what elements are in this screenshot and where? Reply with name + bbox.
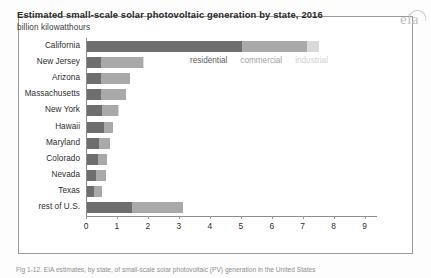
bar-stack: [87, 41, 319, 52]
bar-segment-residential: [87, 154, 98, 165]
title-block: Estimated small-scale solar photovoltaic…: [17, 9, 347, 33]
bar-category-label: New York: [45, 104, 80, 115]
bar-segment-commercial: [101, 73, 130, 84]
bar-stack: [87, 105, 119, 116]
bar-row: California: [86, 41, 377, 52]
bar-row: Maryland: [86, 138, 377, 149]
x-tick-mark: [272, 216, 273, 219]
bar-category-label: Nevada: [51, 169, 80, 180]
bar-segment-residential: [87, 89, 101, 100]
x-tick-mark: [117, 216, 118, 219]
bar-segment-residential: [87, 73, 101, 84]
x-tick-mark: [241, 216, 242, 219]
eia-logo: eia: [400, 11, 419, 27]
bar-segment-commercial: [132, 202, 183, 213]
chart-subtitle: billion kilowatthours: [17, 22, 347, 33]
bar-segment-residential: [87, 186, 94, 197]
bar-segment-residential: [87, 105, 102, 116]
x-tick-label: 0: [84, 221, 89, 232]
bar-segment-industrial: [307, 41, 319, 52]
bar-row: Arizona: [86, 73, 377, 84]
bar-stack: [87, 57, 144, 68]
bar-segment-residential: [87, 41, 242, 52]
bar-segment-commercial: [94, 186, 103, 197]
bar-segment-commercial: [101, 57, 143, 68]
bar-segment-commercial: [242, 41, 307, 52]
bar-segment-industrial: [143, 57, 145, 68]
bar-category-label: California: [45, 40, 80, 51]
bar-stack: [87, 73, 130, 84]
bar-segment-commercial: [99, 138, 110, 149]
bar-segment-residential: [87, 202, 132, 213]
x-tick-label: 1: [115, 221, 120, 232]
bar-row: Nevada: [86, 170, 377, 181]
x-tick-mark: [303, 216, 304, 219]
bar-row: Colorado: [86, 154, 377, 165]
bar-category-label: Massachusetts: [25, 88, 80, 99]
x-tick-label: 4: [207, 221, 212, 232]
bar-segment-residential: [87, 57, 101, 68]
plot-area: CaliforniaNew JerseyArizonaMassachusetts…: [86, 38, 377, 216]
x-tick-label: 5: [238, 221, 243, 232]
x-tick-mark: [148, 216, 149, 219]
bar-segment-commercial: [96, 170, 106, 181]
x-tick-label: 9: [362, 221, 367, 232]
figure-root: Estimated small-scale solar photovoltaic…: [0, 0, 431, 278]
bar-stack: [87, 170, 106, 181]
bar-category-label: Texas: [58, 185, 80, 196]
bar-category-label: Arizona: [52, 72, 80, 83]
bar-segment-commercial: [101, 89, 126, 100]
figure-caption: Fig 1-12. EIA estimates, by state, of sm…: [16, 266, 416, 274]
x-tick-label: 3: [177, 221, 182, 232]
bar-category-label: Hawaii: [55, 121, 80, 132]
bar-row: Hawaii: [86, 122, 377, 133]
x-tick-label: 8: [331, 221, 336, 232]
bar-stack: [87, 89, 126, 100]
x-tick-mark: [210, 216, 211, 219]
x-tick-label: 6: [269, 221, 274, 232]
bar-category-label: New Jersey: [37, 56, 80, 67]
bar-segment-commercial: [98, 154, 107, 165]
chart-title: Estimated small-scale solar photovoltaic…: [17, 9, 347, 21]
bar-segment-industrial: [118, 105, 120, 116]
x-tick-label: 7: [300, 221, 305, 232]
x-tick-mark: [179, 216, 180, 219]
x-tick-mark: [334, 216, 335, 219]
x-tick-label: 2: [146, 221, 151, 232]
bar-stack: [87, 122, 113, 133]
bar-segment-residential: [87, 122, 104, 133]
bar-segment-commercial: [104, 122, 113, 133]
bar-row: New York: [86, 105, 377, 116]
bar-row: New Jersey: [86, 57, 377, 68]
bar-segment-commercial: [102, 105, 117, 116]
bar-stack: [87, 138, 110, 149]
x-tick-mark: [365, 216, 366, 219]
x-tick-mark: [86, 216, 87, 219]
bar-category-label: rest of U.S.: [38, 201, 80, 212]
bar-row: rest of U.S.: [86, 202, 377, 213]
bar-row: Texas: [86, 186, 377, 197]
bar-stack: [87, 202, 183, 213]
bar-category-label: Colorado: [46, 153, 80, 164]
bar-row: Massachusetts: [86, 89, 377, 100]
bar-stack: [87, 154, 107, 165]
bar-segment-residential: [87, 138, 99, 149]
bar-stack: [87, 186, 102, 197]
bar-segment-residential: [87, 170, 96, 181]
bar-category-label: Maryland: [46, 137, 80, 148]
